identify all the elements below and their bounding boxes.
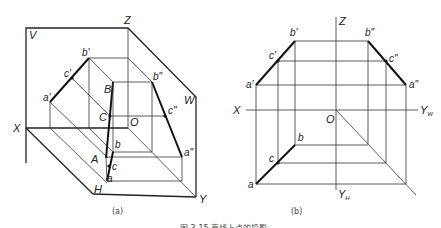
projector-line [128, 58, 152, 82]
figure-caption: 图 3-15 直线上点的投影 [180, 223, 267, 228]
point-c1 [276, 59, 279, 62]
45-degree-line [336, 110, 416, 195]
label-YH: YH [338, 188, 350, 201]
point-c2 [163, 114, 166, 117]
label-c1: c' [269, 50, 277, 61]
label-b1: b' [290, 27, 299, 38]
label-W: W [184, 94, 196, 106]
label-c: c [112, 161, 117, 172]
label-b2: b" [153, 71, 163, 82]
label-Z: Z [123, 14, 132, 26]
label-b1: b' [82, 47, 91, 58]
projector-line [89, 58, 113, 82]
label-Y: Y [199, 193, 207, 205]
line-a-b-projection [256, 145, 295, 184]
point-c2 [384, 59, 387, 62]
label-a: a [248, 179, 254, 190]
label-a1: a' [246, 79, 255, 90]
label-b2: b" [365, 27, 375, 38]
label-B: B [104, 83, 111, 95]
point-c [107, 164, 110, 167]
label-C: C [99, 111, 107, 123]
line-b2-a2-projection [152, 82, 182, 157]
label-X: X [232, 104, 241, 116]
label-c1: c' [64, 68, 72, 79]
label-V: V [29, 29, 38, 41]
label-a: a [107, 173, 113, 184]
x-axis-to-h-edge [26, 128, 93, 194]
label-YW: YW [420, 104, 434, 117]
label-O: O [130, 116, 139, 128]
y-axis-line [128, 128, 196, 197]
label-X: X [12, 122, 21, 134]
point-c [276, 161, 279, 164]
label-b: b [115, 139, 121, 150]
label-Z: Z [338, 15, 347, 27]
line-a1-b1-projection [50, 58, 89, 102]
label-a1: a' [43, 92, 52, 103]
line-a1-b1-projection [256, 41, 295, 85]
projector-line [50, 128, 107, 183]
projection-diagram: V Z W X Y H O B C A b' c' a' b" c" a" b … [0, 0, 441, 228]
label-c: c [269, 153, 274, 164]
label-O: O [326, 113, 335, 125]
caption-b: (b) [291, 207, 302, 216]
label-A: A [90, 153, 98, 165]
label-a2: a" [409, 79, 419, 90]
label-a2: a" [184, 147, 194, 158]
line-b2-a2-projection [368, 41, 406, 85]
label-H: H [94, 183, 102, 195]
point-C [108, 114, 111, 117]
label-c2: c" [168, 105, 177, 116]
caption-a: (a) [112, 207, 123, 216]
label-b: b [298, 132, 304, 143]
figure-b-orthographic: Z X O YW YH b' c' a' b" c" a" b c a (b) [232, 15, 434, 216]
h-plane-bottom-edge [93, 194, 196, 197]
label-c2: c" [389, 53, 398, 64]
figure-a-pictorial: V Z W X Y H O B C A b' c' a' b" c" a" b … [12, 14, 207, 216]
